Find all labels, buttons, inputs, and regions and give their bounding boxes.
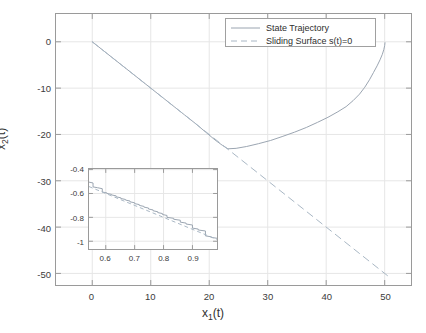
x-tick-label-3: 30 bbox=[248, 291, 288, 302]
legend-label-state-trajectory: State Trajectory bbox=[266, 23, 329, 33]
inset-y-tick-label-2: -0.8 bbox=[58, 213, 84, 222]
x-tick-label-0: 0 bbox=[71, 291, 111, 302]
y-axis-title-subscript: 2 bbox=[0, 139, 10, 144]
figure-canvas: 0-10-20-30-40-5001020304050 x1(t) x2(t) … bbox=[0, 0, 426, 333]
y-tick-label-2: -20 bbox=[11, 129, 51, 140]
x-tick-label-2: 20 bbox=[189, 291, 229, 302]
x-tick-label-4: 40 bbox=[307, 291, 347, 302]
legend[interactable]: State Trajectory Sliding Surface s(t)=0 bbox=[225, 18, 376, 47]
legend-item-sliding-surface[interactable]: Sliding Surface s(t)=0 bbox=[230, 35, 371, 47]
inset-y-tick-label-3: -1 bbox=[58, 238, 84, 247]
x-axis-title-tail: (t) bbox=[213, 306, 224, 320]
inset-y-tick-label-1: -0.6 bbox=[58, 189, 84, 198]
legend-line-sample-dashed bbox=[230, 36, 261, 46]
inset-y-tick-label-0: -0.4 bbox=[58, 164, 84, 173]
y-tick-label-5: -50 bbox=[11, 269, 51, 280]
y-axis-title: x2(t) bbox=[0, 128, 10, 150]
y-axis-title-base: x bbox=[0, 144, 8, 150]
x-tick-label-5: 50 bbox=[366, 291, 406, 302]
y-tick-label-0: 0 bbox=[11, 36, 51, 47]
y-axis-title-tail: (t) bbox=[0, 128, 8, 139]
legend-label-sliding-surface: Sliding Surface s(t)=0 bbox=[266, 36, 352, 46]
x-tick-label-1: 10 bbox=[130, 291, 170, 302]
inset-x-tick-label-1: 0.7 bbox=[121, 254, 147, 263]
y-tick-label-4: -40 bbox=[11, 222, 51, 233]
y-tick-label-3: -30 bbox=[11, 176, 51, 187]
legend-item-state-trajectory[interactable]: State Trajectory bbox=[230, 22, 371, 34]
inset-x-tick-label-2: 0.8 bbox=[151, 254, 177, 263]
y-tick-label-1: -10 bbox=[11, 82, 51, 93]
inset-plot-svg bbox=[89, 169, 217, 249]
x-axis-title: x1(t) bbox=[0, 306, 426, 322]
inset-x-tick-label-0: 0.6 bbox=[92, 254, 118, 263]
inset-x-tick-label-3: 0.9 bbox=[180, 254, 206, 263]
legend-line-sample-solid bbox=[230, 23, 261, 33]
inset-axes bbox=[88, 168, 218, 250]
